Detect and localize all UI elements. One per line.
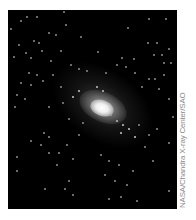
xray-image [8, 10, 177, 209]
point-source [16, 94, 18, 96]
point-source [82, 122, 84, 124]
point-source [148, 18, 150, 20]
point-source [172, 116, 174, 118]
point-source [36, 74, 38, 76]
point-source [168, 142, 170, 144]
point-source [63, 11, 65, 13]
point-source [105, 72, 107, 74]
point-source [28, 72, 30, 74]
point-source [120, 132, 122, 134]
point-source [153, 54, 155, 56]
point-source [148, 134, 150, 136]
point-source [128, 128, 130, 130]
point-source [152, 160, 154, 162]
point-source [163, 62, 165, 64]
point-source [64, 188, 66, 190]
point-source [125, 66, 127, 68]
image-credit: NASA/Chandra X-ray Center/SAO [178, 92, 187, 208]
point-source [170, 62, 172, 64]
point-source [116, 120, 118, 122]
point-source [126, 184, 128, 186]
point-source [14, 106, 16, 108]
point-source [156, 42, 158, 44]
point-source [58, 152, 60, 154]
point-source [86, 70, 88, 72]
point-source [147, 42, 149, 44]
point-source [134, 72, 136, 74]
point-source [161, 54, 163, 56]
point-source [133, 58, 135, 60]
point-source [144, 146, 146, 148]
point-source [25, 52, 27, 54]
point-source [72, 96, 74, 98]
point-source [118, 164, 120, 166]
point-source [43, 132, 45, 134]
point-source [132, 170, 134, 172]
point-source [16, 156, 18, 158]
point-source [96, 86, 98, 88]
point-source [38, 42, 40, 44]
point-source [72, 158, 74, 160]
point-source [55, 34, 57, 36]
point-source [136, 200, 138, 202]
point-source [66, 144, 68, 146]
point-source [121, 57, 123, 59]
point-source [165, 18, 167, 20]
point-source [78, 90, 80, 92]
point-source [158, 88, 160, 90]
point-source [122, 124, 124, 126]
point-source [120, 196, 122, 198]
point-source [127, 27, 129, 29]
point-source [24, 98, 26, 100]
point-source [33, 40, 35, 42]
point-source [100, 154, 102, 156]
point-source [116, 64, 118, 66]
point-source [41, 50, 43, 52]
point-source [20, 82, 22, 84]
point-source [156, 128, 158, 130]
point-source [163, 74, 165, 76]
point-source [30, 57, 32, 59]
point-source [30, 84, 32, 86]
point-source [26, 16, 28, 18]
point-source [102, 90, 104, 92]
point-source [154, 78, 156, 80]
point-source [78, 134, 80, 136]
point-source [48, 136, 50, 138]
point-source [42, 80, 44, 82]
point-source [68, 180, 70, 182]
point-source [48, 106, 50, 108]
point-source [18, 44, 20, 46]
point-source [40, 144, 42, 146]
point-source [108, 198, 110, 200]
point-source [44, 188, 46, 190]
point-source [48, 152, 50, 154]
point-source [168, 190, 170, 192]
point-source [50, 60, 52, 62]
point-source [13, 56, 15, 58]
point-source [65, 24, 67, 26]
point-source [138, 124, 140, 126]
point-source [70, 64, 72, 66]
point-source [97, 51, 99, 53]
point-source [16, 170, 18, 172]
point-source [68, 118, 70, 120]
point-source [36, 16, 38, 18]
point-source [30, 140, 32, 142]
point-source [148, 78, 150, 80]
point-source [52, 74, 54, 76]
point-source [72, 194, 74, 196]
point-source [110, 114, 112, 116]
point-source [108, 160, 110, 162]
point-source [60, 86, 62, 88]
point-source [10, 28, 12, 30]
point-source [78, 68, 80, 70]
point-source [20, 20, 22, 22]
point-source [168, 48, 170, 50]
point-source [60, 50, 62, 52]
point-source [134, 136, 136, 138]
point-source [62, 102, 64, 104]
point-source [80, 36, 82, 38]
point-source [141, 86, 143, 88]
point-source [48, 32, 50, 34]
